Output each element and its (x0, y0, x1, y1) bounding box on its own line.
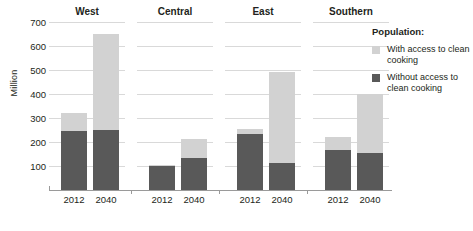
axis-tick (131, 190, 132, 194)
bar-segment-without-access (269, 163, 295, 190)
bar-segment-with-access (149, 165, 175, 166)
gridline (225, 70, 301, 71)
bar-segment-without-access (181, 158, 207, 190)
axis-tick (307, 190, 308, 194)
bar-central-2040 (181, 139, 207, 190)
bar-southern-2040 (357, 94, 383, 190)
gridline (137, 118, 213, 119)
bar-segment-with-access (61, 113, 87, 131)
bar-southern-2012 (325, 137, 351, 190)
gridline (225, 46, 301, 47)
plot-area: West20122040Central20122040East20122040S… (49, 22, 389, 190)
gridline (313, 22, 389, 23)
y-axis-tick-400: 400 (20, 89, 46, 100)
stacked-bar-chart: Million 100200300400500600700 West201220… (0, 0, 473, 231)
gridline (137, 94, 213, 95)
panel-east: East20122040 (225, 22, 301, 190)
x-axis-label-southern-2040: 2040 (350, 194, 390, 205)
bar-east-2012 (237, 129, 263, 190)
bar-central-2012 (149, 165, 175, 190)
bar-segment-with-access (93, 34, 119, 130)
legend-title: Population: (372, 26, 473, 37)
x-axis-left-cap (49, 186, 50, 191)
panel-title-southern: Southern (313, 6, 389, 17)
bar-segment-without-access (93, 130, 119, 190)
legend-swatch-without-access (372, 74, 380, 82)
legend-label-without-access: Without access to clean cooking (387, 72, 473, 93)
x-axis-label-west-2040: 2040 (86, 194, 126, 205)
y-axis-tick-300: 300 (20, 113, 46, 124)
y-axis-tick-500: 500 (20, 65, 46, 76)
x-axis-label-central-2040: 2040 (174, 194, 214, 205)
bar-segment-with-access (325, 137, 351, 150)
y-axis-tick-200: 200 (20, 137, 46, 148)
gridline (137, 46, 213, 47)
bar-segment-without-access (325, 150, 351, 190)
bar-west-2040 (93, 34, 119, 190)
legend-item-without-access: Without access to clean cooking (372, 72, 473, 93)
panel-central: Central20122040 (137, 22, 213, 190)
panel-title-east: East (225, 6, 301, 17)
legend-swatch-with-access (372, 46, 380, 54)
bar-segment-with-access (237, 129, 263, 134)
bar-segment-without-access (237, 134, 263, 190)
bar-east-2040 (269, 72, 295, 190)
gridline (137, 22, 213, 23)
gridline (225, 22, 301, 23)
y-axis-tick-labels: 100200300400500600700 (16, 0, 46, 231)
x-axis-label-east-2040: 2040 (262, 194, 302, 205)
bar-segment-with-access (269, 72, 295, 163)
bar-segment-with-access (357, 94, 383, 153)
legend-label-with-access: With access to clean cooking (387, 44, 473, 65)
bar-segment-without-access (61, 131, 87, 190)
bar-segment-without-access (149, 166, 175, 190)
panel-west: West20122040 (49, 22, 125, 190)
y-axis-tick-600: 600 (20, 41, 46, 52)
bar-segment-with-access (181, 139, 207, 158)
bar-west-2012 (61, 113, 87, 190)
axis-tick (219, 190, 220, 194)
bar-segment-without-access (357, 153, 383, 190)
panel-title-central: Central (137, 6, 213, 17)
panel-title-west: West (49, 6, 125, 17)
gridline (49, 22, 125, 23)
legend-item-with-access: With access to clean cooking (372, 44, 473, 65)
x-axis-baseline (49, 190, 392, 191)
legend: Population: With access to clean cooking… (372, 26, 473, 100)
gridline (137, 70, 213, 71)
y-axis-tick-100: 100 (20, 161, 46, 172)
y-axis-tick-700: 700 (20, 17, 46, 28)
